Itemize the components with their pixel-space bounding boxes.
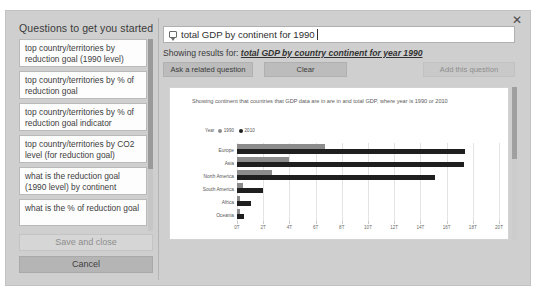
chart-bar[interactable] [237, 175, 435, 180]
screen: ✕ Questions to get you started top count… [0, 0, 536, 293]
legend-item-2010[interactable]: 2010 [239, 128, 255, 133]
x-axis-tick-label: 12T [390, 225, 398, 230]
gridline [447, 143, 448, 221]
showing-results-prefix: Showing results for: [163, 48, 238, 58]
gridline [316, 143, 317, 221]
chart-bar[interactable] [237, 214, 244, 219]
results-scrollbar[interactable] [512, 87, 517, 240]
list-item[interactable]: what is the % of reduction goal [19, 199, 147, 226]
y-axis-tick-label: Oceania [216, 212, 234, 217]
chart-bar[interactable] [237, 188, 263, 193]
list-item[interactable]: top country/territories by % of reductio… [19, 71, 147, 99]
x-axis-tick [499, 221, 500, 224]
list-item[interactable]: top country/territories by CO2 level (fo… [19, 135, 147, 163]
legend-label-2010: 2010 [245, 128, 255, 133]
chart-subtitle: Showing continent that countries that GD… [192, 98, 448, 104]
legend-swatch-1990 [218, 129, 222, 133]
plot-area [237, 143, 499, 221]
gridline [394, 143, 395, 221]
y-axis-tick-label: North America [204, 173, 234, 178]
x-axis-tick-label: 4T [287, 225, 292, 230]
list-item[interactable]: what is the reduction goal (1990 level) … [19, 167, 147, 195]
list-item[interactable]: top country/territories by reduction goa… [19, 39, 147, 67]
text-caret [317, 29, 318, 40]
x-axis-tick [368, 221, 369, 224]
chart-card: Showing continent that countries that GD… [169, 87, 509, 240]
x-axis-tick [263, 221, 264, 224]
ask-related-question-button[interactable]: Ask a related question [163, 62, 253, 77]
x-axis-tick [289, 221, 290, 224]
x-axis-tick-label: 18T [469, 225, 477, 230]
x-axis-tick-label: 20T [495, 225, 503, 230]
gridline [420, 143, 421, 221]
x-axis-tick-label: 6T [313, 225, 318, 230]
gridline [289, 143, 290, 221]
x-axis-tick-label: 10T [364, 225, 372, 230]
sidebar-actions: Save and close Cancel [19, 234, 153, 273]
results-scrollbar-thumb[interactable] [512, 87, 517, 159]
x-axis-tick-label: 8T [339, 225, 344, 230]
chart-bar[interactable] [237, 149, 465, 154]
legend-label-1990: 1990 [224, 128, 234, 133]
x-axis-tick-label: 16T [443, 225, 451, 230]
chart-plot: EuropeAsiaNorth AmericaSouth AmericaAfri… [170, 143, 510, 238]
action-button-row: Ask a related question Clear Add this qu… [163, 62, 515, 78]
x-axis-tick-label: 14T [416, 225, 424, 230]
x-axis-tick [394, 221, 395, 224]
add-this-question-button[interactable]: Add this question [423, 62, 515, 77]
list-item[interactable]: top country/territories by % of reductio… [19, 103, 147, 131]
question-bubble-icon [169, 31, 177, 38]
gridline [263, 143, 264, 221]
question-input-value: total GDP by continent for 1990 [181, 29, 315, 40]
save-and-close-button[interactable]: Save and close [19, 234, 153, 251]
x-axis-tick [237, 221, 238, 224]
gridline [499, 143, 500, 221]
x-axis-tick-label: 0T [234, 225, 239, 230]
x-axis-tick [316, 221, 317, 224]
showing-results-line: Showing results for: total GDP by countr… [163, 48, 422, 58]
x-axis-tick [420, 221, 421, 224]
y-axis-tick-label: South America [203, 186, 234, 191]
gridline [342, 143, 343, 221]
x-axis: 0T2T4T6T8T10T12T14T16T18T20T [237, 221, 499, 237]
gridline [473, 143, 474, 221]
sidebar-scrollbar-thumb[interactable] [148, 39, 153, 169]
chart-bar[interactable] [237, 162, 464, 167]
interpretation-link[interactable]: total GDP by country continent for year … [241, 48, 423, 58]
y-axis-labels: EuropeAsiaNorth AmericaSouth AmericaAfri… [170, 143, 237, 221]
x-axis-tick [447, 221, 448, 224]
y-axis-tick-label: Africa [222, 199, 234, 204]
gridline [368, 143, 369, 221]
legend-swatch-2010 [239, 129, 243, 133]
x-axis-tick-label: 2T [261, 225, 266, 230]
x-axis-tick [473, 221, 474, 224]
y-axis-tick-label: Asia [225, 160, 234, 165]
sidebar-scrollbar[interactable] [148, 39, 153, 231]
y-axis-tick-label: Europe [219, 147, 234, 152]
question-input[interactable]: total GDP by continent for 1990 [163, 26, 515, 43]
chart-legend: Year 1990 2010 [205, 128, 260, 133]
cancel-button[interactable]: Cancel [19, 256, 153, 273]
legend-item-1990[interactable]: 1990 [218, 128, 234, 133]
clear-button[interactable]: Clear [264, 62, 347, 77]
question-results-panel: total GDP by continent for 1990 Showing … [161, 18, 525, 280]
suggested-questions-panel: Questions to get you started top country… [13, 18, 159, 280]
chart-bar[interactable] [237, 201, 251, 206]
suggested-questions-list[interactable]: top country/territories by reduction goa… [19, 39, 153, 231]
panel-title: Questions to get you started [19, 22, 153, 34]
x-axis-tick [342, 221, 343, 224]
legend-title: Year [205, 128, 214, 133]
question-dialog: ✕ Questions to get you started top count… [5, 10, 531, 286]
